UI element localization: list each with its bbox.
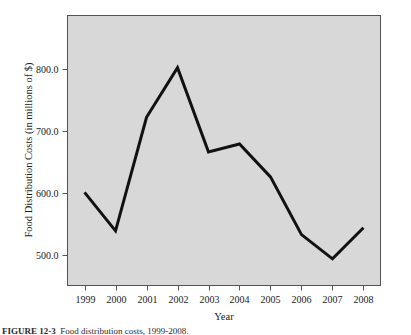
y-axis-tick-label: 700.0 <box>36 126 59 137</box>
x-axis-tick-label: 2002 <box>169 294 189 305</box>
x-axis-ticks: 1999200020012002200320042005200620072008 <box>76 286 374 305</box>
figure-caption-text: Food distribution costs, 1999-2008. <box>60 326 188 335</box>
figure-caption-number: FIGURE 12-3 <box>2 326 56 335</box>
x-axis-title: Year <box>214 311 234 322</box>
x-axis-tick-label: 2007 <box>323 294 343 305</box>
x-axis-tick-label: 2005 <box>261 294 281 305</box>
y-axis-tick-label: 600.0 <box>36 188 59 199</box>
x-axis-tick-label: 2000 <box>107 294 127 305</box>
x-axis-tick-label: 2001 <box>138 294 158 305</box>
x-axis-tick-label: 2008 <box>354 294 374 305</box>
y-axis-tick-label: 500.0 <box>36 250 59 261</box>
y-axis-ticks: 800.0700.0600.0500.0 <box>36 64 68 261</box>
figure-container: 800.0700.0600.0500.0 1999200020012002200… <box>0 0 411 335</box>
figure-caption: FIGURE 12-3 Food distribution costs, 199… <box>2 326 407 335</box>
x-axis-tick-label: 2003 <box>200 294 220 305</box>
x-axis-tick-label: 1999 <box>76 294 96 305</box>
x-axis-tick-label: 2004 <box>230 294 250 305</box>
y-axis-title: Food Distribution Costs (in millions of … <box>23 62 35 238</box>
x-axis-tick-label: 2006 <box>292 294 312 305</box>
y-axis-tick-label: 800.0 <box>36 64 59 75</box>
plot-area-background <box>68 16 381 286</box>
line-chart: 800.0700.0600.0500.0 1999200020012002200… <box>0 0 411 335</box>
